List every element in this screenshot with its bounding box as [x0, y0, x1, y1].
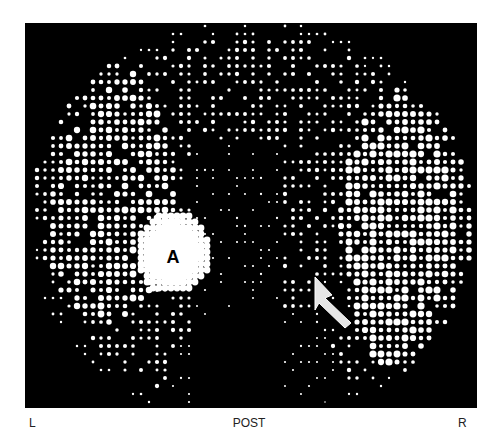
- activity-dot: [339, 80, 343, 84]
- activity-dot: [172, 33, 175, 36]
- activity-dot: [402, 327, 407, 332]
- hot-spot-dot: [180, 213, 187, 220]
- activity-dot: [195, 120, 199, 124]
- activity-dot: [252, 297, 254, 299]
- activity-dot: [292, 313, 294, 315]
- activity-dot: [385, 230, 392, 237]
- activity-dot: [252, 289, 254, 291]
- activity-dot: [106, 279, 112, 285]
- hot-spot-dot: [204, 261, 211, 268]
- activity-dot: [146, 143, 152, 149]
- activity-dot: [426, 207, 432, 213]
- activity-dot: [219, 96, 223, 100]
- activity-dot: [115, 328, 119, 332]
- hot-spot-dot: [192, 279, 199, 286]
- activity-dot: [51, 160, 54, 163]
- activity-dot: [451, 280, 454, 283]
- activity-dot: [204, 289, 206, 291]
- activity-dot: [74, 263, 79, 268]
- activity-dot: [362, 271, 369, 278]
- activity-dot: [403, 136, 408, 141]
- activity-dot: [339, 96, 343, 100]
- activity-dot: [354, 271, 359, 276]
- activity-dot: [355, 336, 359, 340]
- activity-dot: [75, 216, 79, 220]
- activity-dot: [130, 175, 135, 180]
- activity-dot: [130, 207, 136, 213]
- activity-dot: [155, 344, 158, 347]
- activity-dot: [433, 206, 440, 213]
- activity-dot: [316, 361, 318, 363]
- activity-dot: [283, 304, 287, 308]
- activity-dot: [114, 191, 120, 197]
- activity-dot: [179, 96, 182, 99]
- activity-dot: [114, 111, 119, 116]
- activity-dot: [403, 184, 407, 188]
- activity-dot: [441, 254, 448, 261]
- activity-dot: [179, 104, 183, 108]
- activity-dot: [90, 247, 95, 252]
- activity-dot: [236, 225, 238, 227]
- activity-dot: [147, 336, 151, 340]
- activity-dot: [252, 33, 255, 36]
- activity-dot: [90, 279, 96, 285]
- activity-dot: [386, 263, 392, 269]
- activity-dot: [354, 303, 361, 310]
- activity-dot: [66, 167, 72, 173]
- activity-dot: [393, 94, 400, 101]
- activity-dot: [308, 129, 311, 132]
- activity-dot: [98, 183, 103, 188]
- activity-dot: [114, 103, 120, 109]
- activity-dot: [82, 215, 88, 221]
- activity-dot: [377, 214, 384, 221]
- activity-dot: [339, 64, 342, 67]
- activity-dot: [308, 361, 310, 363]
- activity-dot: [115, 352, 118, 355]
- activity-dot: [370, 207, 377, 214]
- activity-dot: [394, 271, 401, 278]
- activity-dot: [419, 232, 424, 237]
- activity-dot: [459, 200, 463, 204]
- activity-dot: [228, 257, 230, 259]
- activity-dot: [203, 40, 207, 44]
- activity-dot: [371, 168, 375, 172]
- activity-dot: [51, 240, 55, 244]
- activity-dot: [260, 281, 262, 283]
- activity-dot: [356, 73, 359, 76]
- activity-dot: [228, 49, 231, 52]
- activity-dot: [369, 350, 376, 357]
- activity-dot: [394, 87, 399, 92]
- activity-dot: [67, 208, 71, 212]
- activity-dot: [315, 240, 318, 243]
- activity-dot: [370, 199, 375, 204]
- activity-dot: [291, 56, 295, 60]
- activity-dot: [106, 255, 111, 260]
- activity-dot: [283, 128, 287, 132]
- activity-dot: [195, 48, 199, 52]
- activity-dot: [51, 184, 55, 188]
- activity-dot: [122, 175, 128, 181]
- activity-dot: [106, 111, 112, 117]
- activity-dot: [316, 337, 318, 339]
- activity-dot: [114, 119, 120, 125]
- activity-dot: [371, 112, 375, 116]
- activity-dot: [220, 273, 222, 275]
- activity-dot: [449, 206, 456, 213]
- activity-dot: [363, 232, 367, 236]
- activity-dot: [283, 56, 287, 60]
- activity-dot: [123, 224, 127, 228]
- activity-dot: [155, 72, 158, 75]
- activity-dot: [385, 214, 392, 221]
- activity-dot: [163, 376, 167, 380]
- activity-dot: [380, 57, 383, 60]
- activity-dot: [203, 80, 207, 84]
- activity-dot: [332, 361, 334, 363]
- activity-dot: [411, 208, 416, 213]
- activity-dot: [402, 279, 408, 285]
- activity-dot: [98, 215, 104, 221]
- activity-dot: [369, 310, 376, 317]
- activity-dot: [283, 112, 287, 116]
- activity-dot: [131, 320, 134, 323]
- activity-dot: [252, 281, 254, 283]
- activity-dot: [59, 176, 63, 180]
